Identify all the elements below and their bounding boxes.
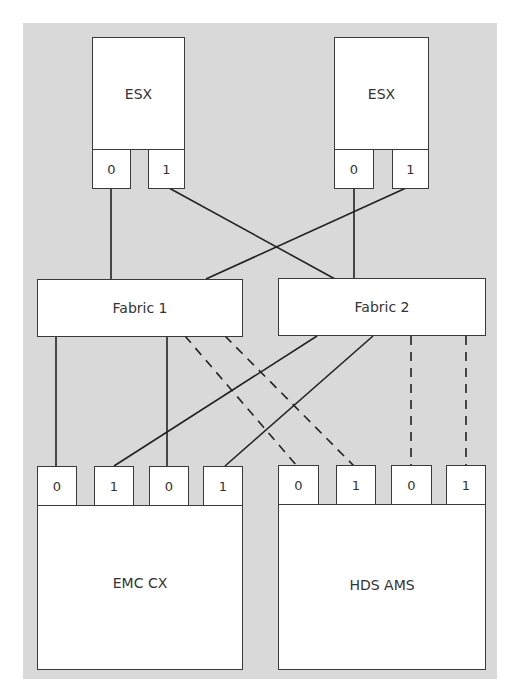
- esx-host-2-label: ESX: [368, 86, 395, 102]
- hds-port-1: 0: [278, 465, 319, 505]
- esx-host-1-port-0: 0: [92, 149, 131, 189]
- link-esx1-p1-fabric2: [169, 188, 335, 279]
- port-label: 1: [462, 478, 470, 493]
- hds-ams-label: HDS AMS: [349, 577, 414, 593]
- port-label: 1: [406, 162, 414, 177]
- fabric-1: Fabric 1: [37, 279, 243, 337]
- fabric-2: Fabric 2: [278, 278, 486, 336]
- emc-port-1: 0: [37, 466, 77, 506]
- emc-port-2: 1: [94, 466, 134, 506]
- link-fabric2-emc-p1a: [114, 336, 317, 466]
- link-fabric1-hds-p1a: [225, 336, 354, 466]
- port-label: 1: [219, 479, 227, 494]
- port-label: 1: [110, 479, 118, 494]
- link-fabric2-emc-p1b: [225, 336, 373, 466]
- hds-port-4: 1: [446, 465, 486, 505]
- link-esx2-p1-fabric1: [206, 188, 406, 279]
- esx-host-2-port-1: 1: [392, 149, 429, 189]
- port-label: 0: [165, 479, 173, 494]
- port-label: 0: [53, 479, 61, 494]
- esx-host-1: ESX: [92, 37, 185, 150]
- port-label: 0: [407, 478, 415, 493]
- esx-host-1-port-1: 1: [148, 149, 185, 189]
- port-label: 1: [162, 162, 170, 177]
- esx-host-2-port-0: 0: [334, 149, 374, 189]
- fabric-1-label: Fabric 1: [113, 300, 168, 316]
- port-label: 0: [350, 162, 358, 177]
- emc-cx-label: EMC CX: [113, 575, 168, 591]
- port-label: 0: [294, 478, 302, 493]
- hds-port-3: 0: [391, 465, 432, 505]
- emc-port-3: 0: [149, 466, 189, 506]
- hds-port-2: 1: [336, 465, 376, 505]
- hds-ams-array: HDS AMS: [278, 504, 486, 670]
- esx-host-1-label: ESX: [125, 86, 152, 102]
- esx-host-2: ESX: [334, 37, 429, 150]
- link-fabric1-hds-p0a: [185, 336, 297, 466]
- emc-port-4: 1: [203, 466, 243, 506]
- fabric-2-label: Fabric 2: [355, 299, 410, 315]
- port-label: 1: [352, 478, 360, 493]
- emc-cx-array: EMC CX: [37, 505, 243, 670]
- port-label: 0: [107, 162, 115, 177]
